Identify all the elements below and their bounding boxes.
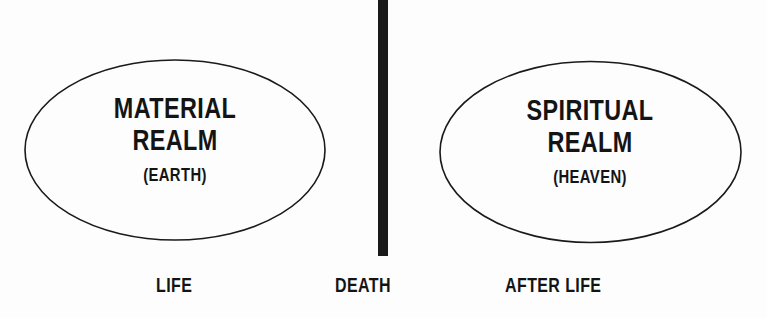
death-divider-line <box>378 0 388 256</box>
material-realm-title-line1: MATERIAL <box>97 92 253 124</box>
material-realm-title-line2: REALM <box>97 124 253 156</box>
death-label: DEATH <box>335 274 391 296</box>
spiritual-realm-subtitle: (HEAVEN) <box>512 164 668 190</box>
material-realm-text: MATERIAL REALM (EARTH) <box>97 92 253 188</box>
material-realm-subtitle: (EARTH) <box>97 162 253 188</box>
spiritual-realm-title-line2: REALM <box>512 126 668 158</box>
spiritual-realm-title-line1: SPIRITUAL <box>512 94 668 126</box>
after-life-label: AFTER LIFE <box>505 274 601 296</box>
spiritual-realm-text: SPIRITUAL REALM (HEAVEN) <box>512 94 668 190</box>
life-label: LIFE <box>156 274 192 296</box>
